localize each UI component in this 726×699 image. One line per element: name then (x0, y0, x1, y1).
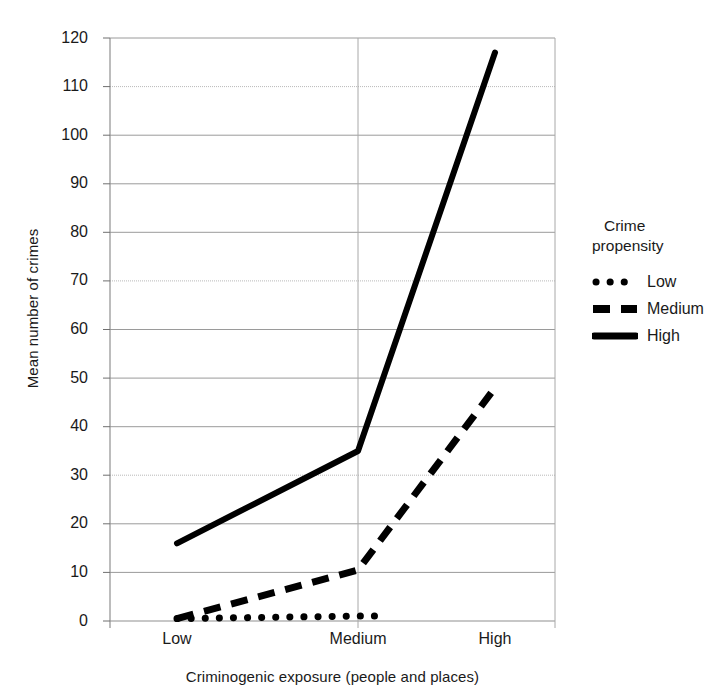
solid-line-icon (592, 330, 638, 342)
y-axis-ticks (103, 38, 110, 621)
horizontal-gridlines (110, 38, 555, 621)
vertical-gridlines (110, 38, 555, 628)
legend-item-high[interactable]: High (592, 322, 724, 349)
legend-label-low: Low (647, 273, 676, 291)
x-tick-label-medium: Medium (298, 630, 418, 648)
x-tick-label-low: Low (117, 630, 237, 648)
x-tick-label-high: High (435, 630, 555, 648)
x-axis-title: Criminogenic exposure (people and places… (110, 668, 555, 685)
plot-area (0, 0, 726, 699)
line-chart-figure: Mean number of crimes 120 110 100 90 80 … (0, 0, 726, 699)
series-line-low (177, 616, 378, 619)
dotted-line-icon (592, 276, 638, 288)
legend-item-medium[interactable]: Medium (592, 295, 724, 322)
dashed-line-icon (592, 303, 638, 315)
legend-item-low[interactable]: Low (592, 268, 724, 295)
legend-label-medium: Medium (647, 300, 704, 318)
legend-title-line1: Crime (604, 216, 724, 236)
series-line-medium (177, 388, 495, 619)
legend-label-high: High (647, 327, 680, 345)
legend: Crime propensity Low Medium (592, 216, 724, 349)
series-line-high (177, 53, 495, 544)
legend-title-line2: propensity (592, 236, 724, 256)
